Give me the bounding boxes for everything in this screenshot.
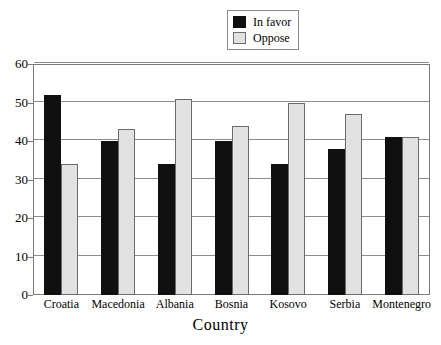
bar-croatia-oppose [61,164,78,295]
x-axis-labels: CroatiaMacedoniaAlbaniaBosniaKosovoSerbi… [33,297,430,315]
bar-serbia-oppose [345,114,362,295]
bar-macedonia-oppose [118,129,135,295]
bar-croatia-in-favor [44,95,61,295]
x-tick-label-serbia: Serbia [330,297,361,311]
x-axis-title: Country [0,316,441,334]
bar-kosovo-in-favor [271,164,288,295]
legend-swatch-oppose [233,32,246,44]
legend-item-in-favor: In favor [233,14,291,30]
bar-bosnia-oppose [232,126,249,295]
bar-kosovo-oppose [288,103,305,296]
x-tick-label-montenegro: Montenegro [372,297,431,311]
legend-swatch-in-favor [233,16,246,28]
legend-item-oppose: Oppose [233,30,291,46]
y-tick-mark-0 [28,295,33,296]
bar-serbia-in-favor [328,149,345,295]
bar-bosnia-in-favor [215,141,232,295]
bar-chart: In favor Oppose 0102030405060 CroatiaMac… [0,0,441,345]
x-tick-label-bosnia: Bosnia [215,297,248,311]
x-tick-label-macedonia: Macedonia [91,297,144,311]
bar-montenegro-oppose [402,137,419,295]
x-tick-label-croatia: Croatia [44,297,79,311]
bar-montenegro-in-favor [385,137,402,295]
bar-albania-in-favor [158,164,175,295]
y-axis-ticks [0,64,33,295]
gridline-60 [34,62,429,63]
x-tick-label-kosovo: Kosovo [270,297,307,311]
bar-macedonia-in-favor [101,141,118,295]
chart-legend: In favor Oppose [227,10,299,50]
bars-layer [33,64,430,295]
bar-albania-oppose [175,99,192,295]
x-tick-label-albania: Albania [156,297,194,311]
legend-label-in-favor: In favor [253,16,291,29]
legend-label-oppose: Oppose [253,32,290,45]
